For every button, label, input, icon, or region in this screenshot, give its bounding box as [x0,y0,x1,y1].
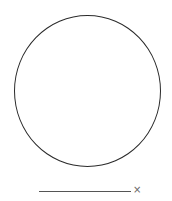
text-input-row: × [39,184,149,198]
drawing-canvas[interactable] [0,0,172,175]
circle-shape [14,15,161,167]
close-icon[interactable]: × [133,184,141,196]
text-input-line[interactable] [39,191,131,192]
